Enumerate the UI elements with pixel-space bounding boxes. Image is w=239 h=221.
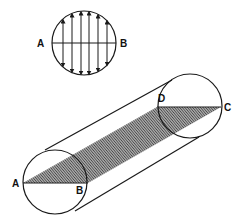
hatch-line bbox=[54, 107, 188, 183]
hatch-line bbox=[0, 107, 95, 183]
hatch-line bbox=[41, 107, 175, 183]
hatch-line bbox=[52, 107, 186, 183]
hatch-line bbox=[0, 107, 74, 183]
hatch-line bbox=[67, 107, 201, 183]
hatch-line bbox=[49, 107, 183, 183]
hatched-plane-abcd bbox=[0, 107, 233, 183]
cylinder-back-circle bbox=[158, 74, 222, 138]
cylinder: A B C D bbox=[0, 74, 233, 214]
inset-label-a: A bbox=[37, 38, 44, 49]
diagram-figure: A B A B C D bbox=[0, 0, 239, 221]
inset-cross-section: A B bbox=[37, 11, 127, 75]
hatch-line bbox=[0, 107, 77, 183]
label-a: A bbox=[12, 178, 19, 189]
label-d: D bbox=[158, 93, 165, 104]
hatch-line bbox=[0, 107, 90, 183]
hatch-line bbox=[65, 107, 199, 183]
hatch-line bbox=[0, 107, 126, 183]
hatch-line bbox=[44, 107, 178, 183]
inset-label-b: B bbox=[120, 38, 127, 49]
hatch-line bbox=[62, 107, 196, 183]
hatch-line bbox=[57, 107, 191, 183]
label-c: C bbox=[224, 102, 231, 113]
hatch-line bbox=[47, 107, 181, 183]
hatch-line bbox=[60, 107, 194, 183]
label-b: B bbox=[76, 185, 83, 196]
